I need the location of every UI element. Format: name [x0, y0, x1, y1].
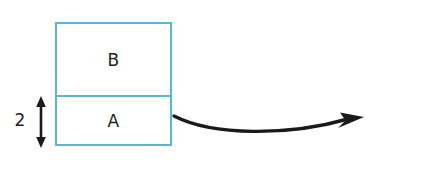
- right-figure: B A C: [230, 0, 426, 170]
- dimension-annotation: 2: [0, 0, 60, 170]
- left-block-a-label: A: [55, 97, 172, 144]
- diagram-canvas: B A 2 B A C: [0, 0, 426, 170]
- double-headed-arrow-icon: [30, 94, 52, 150]
- dimension-value-label: 2: [10, 108, 30, 132]
- left-block-b-label: B: [55, 24, 172, 95]
